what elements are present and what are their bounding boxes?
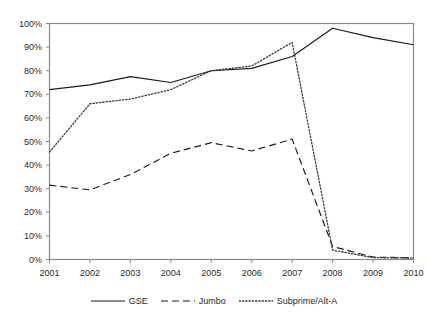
x-axis-tick-label: 2006 [232,268,272,278]
x-axis-tick-label: 2004 [151,268,191,278]
x-axis-tick-label: 2002 [70,268,110,278]
legend-label: Jumbo [199,296,226,306]
y-axis-tick-label: 100% [4,19,42,29]
chart-legend: GSEJumboSubprime/Alt-A [0,296,428,306]
x-axis-tick-label: 2003 [110,268,150,278]
y-axis-tick-label: 20% [4,207,42,217]
x-axis-tick-label: 2001 [30,268,70,278]
x-axis-tick-label: 2008 [313,268,353,278]
x-axis-tick-label: 2009 [353,268,393,278]
y-axis-tick-label: 30% [4,184,42,194]
x-axis-tick-label: 2005 [191,268,231,278]
plot-area-border [50,24,414,260]
x-axis-tick-label: 2010 [394,268,428,278]
dotted-line-swatch [239,297,273,305]
y-axis-tick-label: 70% [4,89,42,99]
y-axis-tick-label: 60% [4,113,42,123]
y-axis-tick-label: 10% [4,231,42,241]
dashed-line-swatch [161,297,195,305]
solid-line-swatch [91,297,125,305]
legend-entry-subprime-alt-a[interactable]: Subprime/Alt-A [239,296,338,306]
y-axis-tick-label: 50% [4,137,42,147]
chart-container: 0%10%20%30%40%50%60%70%80%90%100% 200120… [0,0,428,324]
legend-label: GSE [129,296,148,306]
legend-entry-gse[interactable]: GSE [91,296,148,306]
y-axis-tick-label: 80% [4,66,42,76]
legend-entry-jumbo[interactable]: Jumbo [161,296,226,306]
y-axis-tick-label: 0% [4,255,42,265]
x-axis-tick-label: 2007 [272,268,312,278]
y-axis-tick-label: 90% [4,42,42,52]
legend-label: Subprime/Alt-A [277,296,338,306]
y-axis-tick-label: 40% [4,160,42,170]
